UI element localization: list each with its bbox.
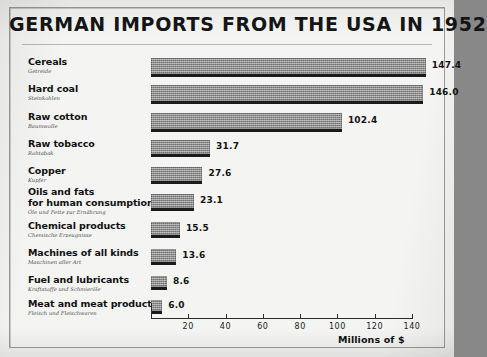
bar-category-label-de: Kupfer [28, 177, 146, 183]
bar-shadow [151, 311, 162, 314]
x-axis-line [151, 318, 412, 319]
bar-category-label-en: Chemical products [28, 221, 146, 232]
bar [151, 113, 342, 129]
x-axis-tick [188, 314, 189, 319]
bar-value-label: 6.0 [168, 300, 185, 310]
bar-category-label-de: Rohtabak [28, 150, 146, 156]
bar [151, 222, 180, 235]
bar [151, 85, 423, 101]
bar-category-label-en: Fuel and lubricants [28, 275, 146, 286]
x-axis-tick [226, 314, 227, 319]
bar-value-label: 23.1 [200, 195, 223, 205]
bar-category-label: CopperKupfer [28, 166, 146, 183]
bar-value-label: 31.7 [216, 141, 239, 151]
bar-category-label-de: Kraftstoffe und Schmieröle [28, 286, 146, 292]
bar-category-label-en: Raw cotton [28, 112, 146, 123]
bar [151, 249, 176, 262]
bar-value-label: 146.0 [429, 87, 458, 97]
x-axis-tick-label: 140 [403, 322, 420, 331]
bar [151, 58, 426, 74]
bar-category-label-de: Maschinen aller Art [28, 259, 146, 265]
bar-shadow [151, 235, 180, 238]
bar-shadow [151, 262, 176, 265]
bar-category-label: Hard coalSteinkohlen [28, 84, 146, 101]
bar-value-label: 147.4 [432, 60, 461, 70]
bar-shadow [151, 129, 342, 132]
bar-category-label-en: Raw tobacco [28, 139, 146, 150]
bar-category-label-en: Cereals [28, 57, 146, 68]
bar-value-label: 102.4 [348, 115, 377, 125]
bar-category-label-en-cont: for human consumption [28, 198, 146, 209]
bar-value-label: 15.5 [186, 223, 209, 233]
x-axis-tick-label: 60 [257, 322, 268, 331]
bar [151, 167, 202, 181]
bar-category-label: Machines of all kindsMaschinen aller Art [28, 248, 146, 265]
bar-category-label-en: Copper [28, 166, 146, 177]
bar-category-label-de: Baumwolle [28, 123, 146, 129]
bar-category-label: Raw cottonBaumwolle [28, 112, 146, 129]
axis-origin-tick [151, 303, 152, 319]
bar [151, 194, 194, 208]
bar-category-label: Raw tobaccoRohtabak [28, 139, 146, 156]
bar-category-label-de: Fleisch und Fleischwaren [28, 310, 146, 316]
bar-category-label: Meat and meat productsFleisch und Fleisc… [28, 299, 146, 316]
x-axis-unit-label: Millions of $ [338, 334, 405, 345]
x-axis-tick-label: 20 [183, 322, 194, 331]
x-axis-tick-label: 80 [294, 322, 305, 331]
bar-shadow [151, 287, 167, 290]
bar-category-label: Chemical productsChemische Erzeugnisse [28, 221, 146, 238]
bar-category-label-de: Chemische Erzeugnisse [28, 232, 146, 238]
bar-category-label-de: Getreide [28, 68, 146, 74]
x-axis-tick-label: 120 [366, 322, 383, 331]
bar [151, 300, 162, 311]
bar-category-label: Fuel and lubricantsKraftstoffe und Schmi… [28, 275, 146, 292]
bar-value-label: 27.6 [208, 168, 231, 178]
bar-shadow [151, 101, 423, 104]
bar-category-label-en: Oils and fats [28, 187, 146, 198]
x-axis-tick-label: 100 [329, 322, 346, 331]
bar-category-label: Oils and fatsfor human consumptionÖle un… [28, 187, 146, 215]
bar-shadow [151, 181, 202, 184]
bar-category-label-en: Meat and meat products [28, 299, 146, 310]
x-axis-tick [263, 314, 264, 319]
bar [151, 276, 167, 287]
bar-category-label: CerealsGetreide [28, 57, 146, 74]
x-axis-tick [375, 314, 376, 319]
bar-category-label-en: Machines of all kinds [28, 248, 146, 259]
bar-value-label: 8.6 [173, 276, 190, 286]
x-axis-tick [412, 314, 413, 319]
bar-category-label-en: Hard coal [28, 84, 146, 95]
bar-shadow [151, 74, 426, 77]
bar-shadow [151, 208, 194, 211]
bar [151, 140, 210, 154]
x-axis-tick [337, 314, 338, 319]
x-axis-tick [300, 314, 301, 319]
x-axis-tick-label: 40 [220, 322, 231, 331]
bar-category-label-de: Steinkohlen [28, 95, 146, 101]
bar-category-label-de: Öle und Fette zur Ernährung [28, 209, 146, 215]
bar-value-label: 13.6 [182, 250, 205, 260]
bar-shadow [151, 154, 210, 157]
